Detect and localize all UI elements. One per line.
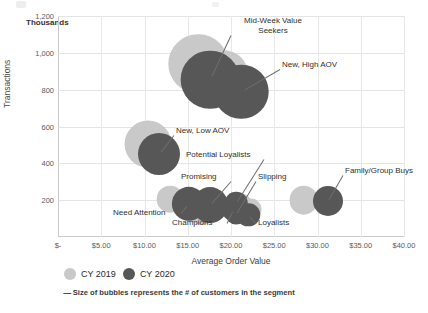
annotation-line: Loyalists bbox=[258, 218, 289, 228]
legend-label-cy2020: CY 2020 bbox=[140, 269, 175, 279]
x-axis-tick-label: $- bbox=[55, 241, 62, 250]
annotation-mid-week: Mid-Week ValueSeekers bbox=[233, 16, 313, 36]
cropped-header-artifact-right bbox=[212, 2, 219, 7]
x-axis-tick-label: $25.00 bbox=[263, 241, 286, 250]
annotation-champions: Champions bbox=[172, 218, 212, 228]
gridline-vertical bbox=[274, 16, 275, 237]
annotation-line: Mid-Week Value bbox=[233, 16, 313, 26]
bubble-new-high-aov[interactable] bbox=[214, 64, 269, 119]
legend-swatch-cy2019 bbox=[64, 268, 76, 280]
x-axis-tick-label: $30.00 bbox=[306, 241, 329, 250]
x-axis-tick-label: $40.00 bbox=[393, 241, 416, 250]
cropped-header-artifact-left bbox=[16, 1, 26, 8]
y-axis-tick-label: 1,000 bbox=[35, 48, 54, 57]
bubble-family-group-buys[interactable] bbox=[313, 186, 343, 216]
annotation-line: New, High AOV bbox=[282, 60, 337, 70]
annotation-potential-loyalists: Potential Loyalists bbox=[186, 150, 250, 160]
legend-item-cy2019[interactable]: CY 2019 bbox=[64, 268, 116, 280]
gridline-vertical bbox=[101, 16, 102, 237]
annotation-need-attention: Need Attention bbox=[113, 208, 165, 218]
annotation-line: Family/Group Buys bbox=[345, 166, 413, 176]
bubble-new-low-aov[interactable] bbox=[138, 133, 180, 175]
annotation-slipping: Slipping bbox=[258, 172, 286, 182]
annotation-line: Seekers bbox=[233, 26, 313, 36]
annotation-loyalists: Loyalists bbox=[258, 218, 289, 228]
footnote-dash: ----- bbox=[63, 288, 71, 297]
footnote: ----- Size of bubbles represents the # o… bbox=[63, 288, 295, 297]
x-axis-tick-label: $10.00 bbox=[133, 241, 156, 250]
annotation-line: Champions bbox=[172, 218, 212, 228]
y-axis-tick-label: 400 bbox=[41, 159, 54, 168]
footnote-text: Size of bubbles represents the # of cust… bbox=[73, 288, 295, 297]
legend-label-cy2019: CY 2019 bbox=[81, 269, 116, 279]
annotation-line: Potential Loyalists bbox=[186, 150, 250, 160]
legend: CY 2019 CY 2020 bbox=[64, 268, 175, 280]
y-axis-tick-label: 800 bbox=[41, 85, 54, 94]
annotation-line: Promising bbox=[181, 172, 217, 182]
x-axis-tick-label: $15.00 bbox=[176, 241, 199, 250]
y-axis-tick-label: 200 bbox=[41, 196, 54, 205]
x-axis-tick-label: $5.00 bbox=[92, 241, 111, 250]
annotation-new-low-aov: New, Low AOV bbox=[176, 126, 229, 136]
legend-swatch-cy2020 bbox=[123, 268, 135, 280]
x-axis-tick-label: $20.00 bbox=[220, 241, 243, 250]
y-axis-tick-label: 1,200 bbox=[35, 12, 54, 21]
annotation-family-group-buys: Family/Group Buys bbox=[345, 166, 413, 176]
y-axis-tick-label: 600 bbox=[41, 122, 54, 131]
gridline-vertical bbox=[404, 16, 405, 237]
y-axis-title: Transactions bbox=[2, 60, 12, 108]
annotation-line: New, Low AOV bbox=[176, 126, 229, 136]
plot-area: 2004006008001,0001,200$-$5.00$10.00$15.0… bbox=[58, 16, 404, 237]
annotation-promising: Promising bbox=[181, 172, 217, 182]
annotation-line: Need Attention bbox=[113, 208, 165, 218]
annotation-line: Slipping bbox=[258, 172, 286, 182]
annotation-new-high-aov: New, High AOV bbox=[282, 60, 337, 70]
legend-item-cy2020[interactable]: CY 2020 bbox=[123, 268, 175, 280]
x-axis-title: Average Order Value bbox=[58, 256, 404, 266]
gridline-vertical bbox=[361, 16, 362, 237]
x-axis-tick-label: $35.00 bbox=[349, 241, 372, 250]
bubble-chart: Thousands Transactions Average Order Val… bbox=[0, 0, 428, 313]
